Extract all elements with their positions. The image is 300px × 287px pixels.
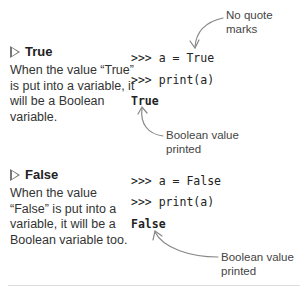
arrow-boolean-printed-2-icon bbox=[155, 232, 218, 257]
divider bbox=[8, 285, 300, 286]
arrow-no-quote-icon bbox=[195, 18, 223, 47]
arrow-boolean-printed-icon bbox=[142, 108, 163, 136]
annotation-arrows bbox=[0, 0, 300, 287]
